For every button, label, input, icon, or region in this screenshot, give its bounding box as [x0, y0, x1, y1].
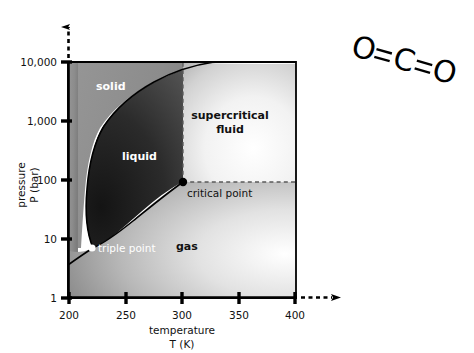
- region-label-liquid: liquid: [122, 150, 157, 163]
- x-tick-label-350: 350: [229, 309, 249, 321]
- molecule-bond-right-double: [415, 61, 433, 73]
- molecule-bond-left-double: [374, 49, 392, 61]
- y-axis-title: pressure P (bar): [15, 162, 40, 207]
- y-tick-label-10: 10: [44, 233, 57, 245]
- x-tick-label-300: 300: [172, 309, 192, 321]
- phase-diagram-figure: 10,000 1,000 100 10 1 200 250 300 350 40…: [0, 0, 474, 353]
- x-tick-label-400: 400: [285, 309, 305, 321]
- region-label-solid: solid: [96, 80, 126, 93]
- y-tick-label-1000: 1,000: [27, 115, 57, 127]
- triple-point-marker: [88, 244, 95, 251]
- molecule-atom-c: C: [389, 40, 419, 79]
- region-label-supercritical-fluid-line1: supercritical: [191, 109, 269, 122]
- x-tick-label-200: 200: [59, 309, 79, 321]
- y-axis-title-line1: pressure: [15, 162, 27, 207]
- triple-point-label: triple point: [98, 242, 156, 254]
- y-tick-label-1: 1: [50, 292, 57, 304]
- molecule-atom-o-left: O: [348, 28, 380, 68]
- carbon-dioxide-structure: O C O: [348, 28, 461, 91]
- critical-point-marker: [179, 178, 187, 186]
- x-axis-title-line2: T (K): [169, 338, 195, 350]
- region-label-gas: gas: [176, 240, 198, 253]
- y-tick-label-10000: 10,000: [20, 56, 57, 68]
- x-tick-label-250: 250: [116, 309, 136, 321]
- x-axis-title: temperature T (K): [149, 324, 215, 350]
- critical-point-label: critical point: [187, 187, 252, 199]
- molecule-atom-o-right: O: [429, 51, 461, 91]
- x-axis-tick-labels: 200 250 300 350 400: [59, 309, 305, 321]
- supercritical-region-fill: [183, 62, 296, 182]
- y-axis-title-line2: P (bar): [28, 167, 40, 202]
- x-axis-title-line1: temperature: [149, 324, 215, 336]
- region-label-supercritical-fluid-line2: fluid: [216, 123, 244, 136]
- phase-diagram-svg: 10,000 1,000 100 10 1 200 250 300 350 40…: [0, 0, 474, 353]
